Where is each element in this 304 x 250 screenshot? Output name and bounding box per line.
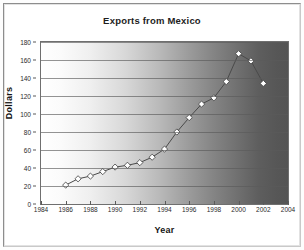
y-tick-label: 140 [20,75,31,82]
y-tick-label: 160 [20,57,31,64]
x-tick-label: 1984 [34,206,48,213]
gridline [41,150,288,151]
x-tick-mark [214,201,215,205]
gridline [41,114,288,115]
y-tick-label: 20 [24,183,31,190]
x-tick-mark [239,201,240,205]
y-tick-label: 120 [20,93,31,100]
x-axis: 1984198619881990199219941996199820002002… [40,206,289,220]
x-tick-label: 1990 [108,206,122,213]
chart-page: Exports from Mexico Dollars 020406080100… [0,0,304,250]
x-tick-label: 1996 [182,206,196,213]
gridline [41,42,288,43]
data-point-marker [100,169,106,175]
y-tick-label: 0 [27,201,31,208]
y-tick-label: 80 [24,129,31,136]
x-tick-mark [288,201,289,205]
x-tick-mark [115,201,116,205]
y-tick-label: 40 [24,165,31,172]
y-tick-mark [33,96,36,97]
y-tick-label: 100 [20,111,31,118]
x-tick-mark [140,201,141,205]
data-point-marker [149,154,155,160]
data-series-line [41,42,288,204]
x-tick-mark [41,201,42,205]
y-tick-mark [33,114,36,115]
x-tick-label: 1988 [83,206,97,213]
y-tick-mark [33,168,36,169]
x-tick-mark [263,201,264,205]
x-tick-label: 1998 [207,206,221,213]
gridline [41,132,288,133]
y-tick-mark [33,132,36,133]
y-tick-label: 180 [20,39,31,46]
x-tick-mark [90,201,91,205]
plot-area [40,41,289,205]
chart-title: Exports from Mexico [0,15,304,26]
data-point-marker [260,80,266,86]
x-tick-label: 1994 [157,206,171,213]
y-tick-mark [33,150,36,151]
y-tick-mark [33,42,36,43]
data-point-marker [236,51,242,57]
data-point-marker [87,173,93,179]
x-tick-label: 1992 [133,206,147,213]
y-tick-label: 60 [24,147,31,154]
series-polyline [66,54,264,185]
x-axis-title: Year [40,225,289,235]
x-tick-mark [189,201,190,205]
y-tick-mark [33,186,36,187]
x-tick-mark [66,201,67,205]
y-axis: 020406080100120140160180 [0,41,36,205]
x-tick-label: 2004 [281,206,295,213]
y-tick-mark [33,78,36,79]
data-point-marker [75,176,81,182]
x-tick-label: 2002 [256,206,270,213]
data-point-marker [137,160,143,166]
x-tick-label: 1986 [58,206,72,213]
y-tick-mark [33,60,36,61]
x-tick-label: 2000 [231,206,245,213]
y-tick-mark [33,204,36,205]
gridline [41,168,288,169]
gridline [41,60,288,61]
gridline [41,186,288,187]
gridline [41,78,288,79]
x-tick-mark [165,201,166,205]
gridline [41,96,288,97]
